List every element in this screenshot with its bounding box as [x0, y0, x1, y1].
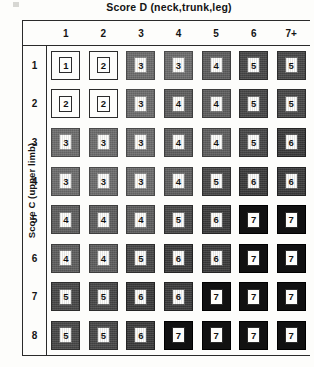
score-chip: 4: [202, 89, 231, 118]
score-value: 7: [172, 327, 185, 343]
row-header-4: 4: [22, 176, 47, 187]
table-row: 11233455: [22, 46, 310, 85]
score-chip: 4: [126, 205, 155, 234]
grid-cell: 7: [272, 321, 310, 350]
grid-cell: 4: [85, 244, 123, 273]
score-value: 6: [210, 212, 223, 228]
score-value: 5: [172, 212, 185, 228]
score-chip: 5: [277, 89, 306, 118]
score-value: 5: [59, 289, 72, 305]
score-value: 5: [134, 250, 147, 266]
score-value: 5: [97, 289, 110, 305]
grid-cell: 5: [160, 205, 198, 234]
score-value: 7: [285, 327, 298, 343]
grid-cell: 6: [160, 282, 198, 311]
score-chip: 2: [51, 89, 80, 118]
row-header-5: 5: [22, 214, 47, 225]
grid-cell: 5: [122, 244, 160, 273]
row-header-1: 1: [22, 60, 47, 71]
score-value: 3: [59, 134, 72, 150]
score-chip: 5: [239, 51, 268, 80]
score-value: 6: [172, 289, 185, 305]
score-chip: 5: [277, 51, 306, 80]
grid-cell: 4: [160, 167, 198, 196]
score-value: 5: [210, 173, 223, 189]
score-chip: 3: [126, 128, 155, 157]
figure-title-text: Score D (neck,trunk,leg): [82, 1, 232, 13]
score-value: 5: [285, 96, 298, 112]
score-value: 7: [247, 212, 260, 228]
grid-cell: 5: [272, 89, 310, 118]
score-value: 7: [247, 250, 260, 266]
score-value: 5: [247, 134, 260, 150]
rule-bottom: [22, 355, 310, 356]
table-row: 43334566: [22, 162, 310, 201]
score-chip: 4: [89, 205, 118, 234]
grid-cell: 6: [122, 321, 160, 350]
score-chip: 4: [164, 89, 193, 118]
table-row: 64456677: [22, 239, 310, 278]
row-header-7: 7: [22, 291, 47, 302]
score-chip: 5: [89, 282, 118, 311]
column-header-5: 5: [197, 26, 235, 42]
score-chip: 6: [277, 128, 306, 157]
grid-cell: 3: [122, 128, 160, 157]
score-value: 5: [285, 57, 298, 73]
grid-cell: 3: [47, 128, 85, 157]
score-value: 4: [172, 134, 185, 150]
row-cells: 2234455: [47, 85, 310, 124]
score-chip: 6: [239, 167, 268, 196]
grid-cell: 2: [85, 51, 123, 80]
column-header-4: 4: [160, 26, 198, 42]
column-header-2: 2: [85, 26, 123, 42]
rule-top: [22, 20, 310, 21]
score-value: 7: [247, 289, 260, 305]
score-chip: 4: [164, 128, 193, 157]
grid-cell: 3: [122, 51, 160, 80]
grid-cell: 7: [235, 321, 273, 350]
score-value: 4: [172, 96, 185, 112]
grid-cell: 3: [122, 167, 160, 196]
grid-cell: 7: [160, 321, 198, 350]
score-value: 5: [97, 327, 110, 343]
score-chip: 3: [164, 51, 193, 80]
row-header-2: 2: [22, 98, 47, 109]
score-value: 7: [285, 212, 298, 228]
score-chip: 3: [126, 51, 155, 80]
score-value: 4: [134, 212, 147, 228]
column-header-row: 1234567+: [47, 26, 310, 42]
grid-cell: 3: [122, 89, 160, 118]
score-value: 2: [97, 96, 110, 112]
grid-cell: 6: [122, 282, 160, 311]
score-chip: 5: [51, 321, 80, 350]
score-chip: 4: [164, 167, 193, 196]
grid-cell: 7: [272, 244, 310, 273]
grid-cell: 5: [235, 128, 273, 157]
score-chip: 7: [277, 321, 306, 350]
grid-cell: 5: [47, 321, 85, 350]
score-value: 3: [134, 57, 147, 73]
grid-cell: 6: [235, 167, 273, 196]
grid-cell: 7: [197, 321, 235, 350]
grid-cell: 4: [160, 128, 198, 157]
score-value: 5: [247, 96, 260, 112]
grid-cell: 4: [197, 51, 235, 80]
grid-cell: 4: [197, 89, 235, 118]
score-value: 3: [172, 57, 185, 73]
score-chip: 7: [202, 321, 231, 350]
score-value: 5: [59, 327, 72, 343]
grid-cell: 6: [160, 244, 198, 273]
score-value: 6: [172, 250, 185, 266]
row-header-8: 8: [22, 330, 47, 341]
score-value: 7: [210, 327, 223, 343]
grid-cell: 3: [47, 167, 85, 196]
score-chip: 7: [239, 244, 268, 273]
row-cells: 4456677: [47, 239, 310, 278]
score-value: 3: [134, 173, 147, 189]
row-cells: 3334566: [47, 162, 310, 201]
score-chip: 4: [51, 244, 80, 273]
score-chip: 3: [51, 167, 80, 196]
table-row: 33334456: [22, 123, 310, 162]
grid-cell: 6: [272, 128, 310, 157]
score-value: 7: [285, 250, 298, 266]
